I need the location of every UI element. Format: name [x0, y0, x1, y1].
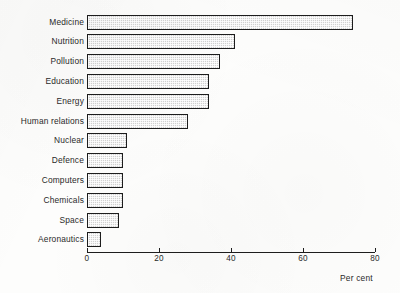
x-axis-tick	[303, 248, 304, 252]
category-label: Aeronautics	[38, 235, 84, 243]
x-axis-line	[87, 252, 375, 253]
bar	[87, 15, 353, 30]
bar	[87, 74, 209, 89]
category-label: Pollution	[51, 57, 84, 65]
x-axis-tick-label: 60	[298, 255, 308, 263]
x-axis-tick-label: 80	[370, 255, 380, 263]
bar	[87, 114, 188, 129]
category-label: Nutrition	[51, 37, 84, 45]
bar	[87, 54, 220, 69]
x-axis-tick-label: 0	[85, 255, 90, 263]
category-label: Human relations	[21, 117, 84, 125]
bar	[87, 213, 119, 228]
category-label: Medicine	[49, 18, 84, 26]
bar	[87, 232, 101, 247]
x-axis-title: Per cent	[340, 274, 373, 282]
chart-page: MedicineNutritionPollutionEducationEnerg…	[0, 0, 400, 293]
category-label: Computers	[42, 176, 84, 184]
x-axis-tick-label: 40	[226, 255, 236, 263]
x-axis-tick	[231, 248, 232, 252]
plot-area: 020406080	[87, 0, 387, 293]
bar	[87, 153, 123, 168]
bar	[87, 193, 123, 208]
x-axis-tick	[87, 248, 88, 252]
bar-chart: MedicineNutritionPollutionEducationEnerg…	[0, 0, 400, 293]
x-axis-tick	[159, 248, 160, 252]
bar	[87, 34, 235, 49]
x-axis-tick	[375, 248, 376, 252]
category-label: Nuclear	[54, 136, 84, 144]
category-label: Energy	[57, 97, 84, 105]
category-axis-labels: MedicineNutritionPollutionEducationEnerg…	[4, 0, 84, 293]
category-label: Defence	[52, 156, 84, 164]
bar	[87, 173, 123, 188]
x-axis-tick-label: 20	[154, 255, 164, 263]
category-label: Space	[60, 216, 85, 224]
category-label: Education	[45, 77, 84, 85]
bar	[87, 94, 209, 109]
category-label: Chemicals	[44, 196, 84, 204]
bar	[87, 133, 127, 148]
